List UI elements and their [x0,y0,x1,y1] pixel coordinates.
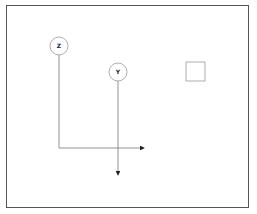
node-y[interactable]: Y [109,63,127,81]
node-z[interactable]: Z [50,37,68,55]
edge-z [59,55,144,148]
node-z-label: Z [57,42,62,49]
node-box[interactable] [186,62,205,81]
node-y-label: Y [115,68,121,75]
diagram-canvas: Z Y [0,0,257,214]
